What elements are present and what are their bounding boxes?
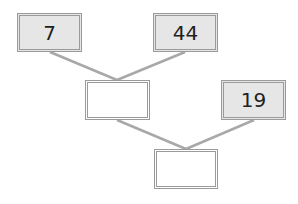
edge-sum1-to-sum2	[117, 120, 186, 149]
answer-box-sum2[interactable]	[154, 149, 218, 189]
edge-19-to-sum2	[186, 120, 254, 149]
edge-44-to-sum1	[117, 52, 185, 80]
number-value: 44	[173, 21, 198, 45]
edge-7-to-sum1	[50, 52, 117, 80]
number-value: 7	[43, 21, 56, 45]
number-value: 19	[241, 88, 266, 112]
number-box-19: 19	[221, 80, 286, 120]
number-box-44: 44	[153, 13, 218, 52]
answer-box-sum1[interactable]	[85, 80, 150, 120]
number-box-7: 7	[17, 13, 82, 52]
